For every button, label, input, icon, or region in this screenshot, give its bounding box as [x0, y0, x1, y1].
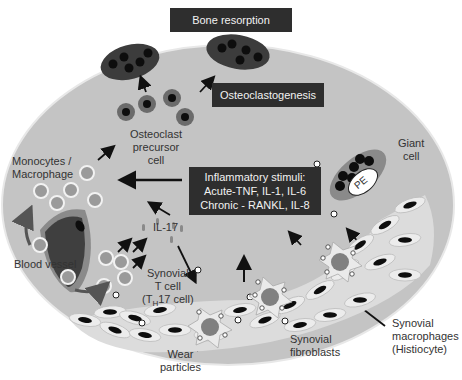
stimuli-line-2: Acute-TNF, IL-1, IL-6	[189, 184, 321, 198]
label-line: Monocytes /	[12, 155, 73, 168]
osteoclast-precursor-label: Osteoclast precursor cell	[130, 128, 182, 167]
osteoclastogenesis-box: Osteoclastogenesis	[212, 83, 324, 107]
label-line: macrophages	[392, 330, 459, 343]
label-line: T cell	[142, 280, 194, 293]
label-line: particles	[160, 361, 201, 374]
synovial-macrophages-label: Synovial macrophages (Histiocyte)	[392, 317, 459, 356]
bone-resorption-box: Bone resorption	[170, 8, 292, 32]
th17-suffix: 17 cell)	[158, 293, 193, 305]
label-line: Synovial	[142, 267, 194, 280]
synovial-fibroblasts-label: Synovial fibroblasts	[290, 333, 340, 359]
th17-prefix: (T	[142, 293, 152, 305]
label-line: cell	[398, 150, 424, 163]
inflammatory-stimuli-box: Inflammatory stimuli: Acute-TNF, IL-1, I…	[189, 167, 321, 215]
tcell-label: Synovial T cell (TH17 cell)	[142, 267, 194, 310]
label-line: Wear	[160, 348, 201, 361]
label-line: Synovial	[392, 317, 459, 330]
th17-label: (TH17 cell)	[142, 293, 194, 310]
blood-vessel-label: Blood vessel	[14, 258, 76, 271]
label-line: Synovial	[290, 333, 340, 346]
label-line: Macrophage	[12, 168, 73, 181]
label-line: precursor	[130, 141, 182, 154]
wear-particles-label: Wear particles	[160, 348, 201, 374]
label-line: cell	[130, 154, 182, 167]
label-line: fibroblasts	[290, 346, 340, 359]
stimuli-line-3: Chronic - RANKL, IL-8	[189, 198, 321, 212]
giant-cell-label: Giant cell	[398, 137, 424, 163]
label-line: Osteoclast	[130, 128, 182, 141]
stimuli-line-1: Inflammatory stimuli:	[189, 170, 321, 184]
label-line: Giant	[398, 137, 424, 150]
label-line: (Histiocyte)	[392, 343, 459, 356]
monocytes-label: Monocytes / Macrophage	[12, 155, 73, 181]
il17-label: IL-17	[153, 221, 178, 234]
